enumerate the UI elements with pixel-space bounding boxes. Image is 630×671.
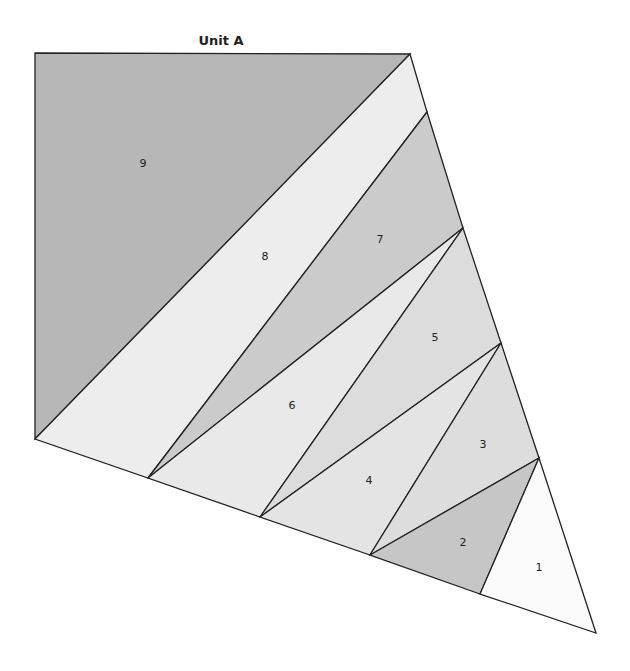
foundation-piecing-diagram: 9 8 7 6 5 4 3 2 1	[0, 0, 630, 671]
piece-5-label: 5	[432, 331, 439, 344]
piece-9-label: 9	[140, 157, 147, 170]
piece-1-label: 1	[536, 561, 543, 574]
piece-2-label: 2	[460, 536, 467, 549]
piece-3-label: 3	[480, 438, 487, 451]
piece-6-label: 6	[289, 399, 296, 412]
piece-8-label: 8	[262, 250, 269, 263]
piece-7-label: 7	[377, 233, 384, 246]
piece-4-label: 4	[366, 474, 373, 487]
